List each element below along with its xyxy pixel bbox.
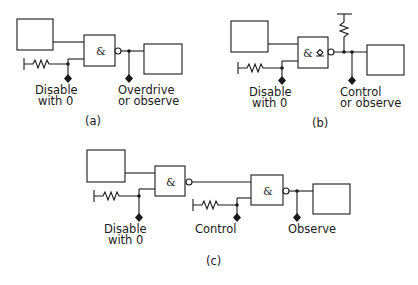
source-block-b: [231, 21, 268, 52]
caption-c: (c): [206, 254, 221, 268]
inversion-bubble-a: [115, 48, 121, 54]
junction-dot-c-in: [137, 194, 141, 198]
junction-dot-c-control: [235, 203, 239, 207]
inversion-bubble-b: [328, 49, 334, 55]
test-point-a-in-icon[interactable]: [64, 74, 72, 83]
resistor-a-icon: [24, 60, 68, 68]
inversion-bubble-c2: [283, 188, 289, 194]
caption-a: (a): [85, 114, 101, 128]
panel-c: & & Disable with 0 Control Observe (c): [87, 150, 350, 268]
testability-circuit-diagram: & Disable with 0 Overdrive or observe (a…: [0, 0, 418, 285]
label-a-disable-2: with 0: [38, 94, 73, 108]
resistor-c1-icon: [94, 192, 139, 200]
test-point-c-in-icon[interactable]: [135, 213, 143, 222]
label-b-control-2: or observe: [340, 96, 401, 110]
gate-symbol-a: &: [96, 45, 106, 58]
inversion-bubble-c1: [186, 179, 192, 185]
label-c-observe: Observe: [288, 222, 336, 236]
dest-block-c: [313, 184, 350, 214]
test-point-b-out-icon[interactable]: [348, 76, 356, 85]
test-point-c-control-icon[interactable]: [233, 213, 241, 222]
label-c-disable-2: with 0: [108, 233, 143, 247]
dest-block-a: [144, 44, 182, 74]
label-c-control: Control: [195, 222, 237, 236]
pullup-resistor-b-icon: [340, 14, 348, 52]
source-block-c: [87, 150, 125, 182]
resistor-b-icon: [238, 64, 282, 72]
test-point-b-in-icon[interactable]: [278, 76, 286, 85]
label-b-disable-2: with 0: [252, 96, 287, 110]
panel-a: & Disable with 0 Overdrive or observe (a…: [17, 19, 182, 128]
test-point-c-out-icon[interactable]: [293, 213, 301, 222]
label-a-overdrive-2: or observe: [118, 94, 179, 108]
test-point-a-out-icon[interactable]: [125, 74, 133, 83]
dest-block-b: [367, 45, 404, 75]
gate-symbol-c1: &: [166, 176, 176, 189]
gate-symbol-c2: &: [263, 185, 273, 198]
junction-dot-a-in: [66, 62, 70, 66]
panel-b: & Disable with 0 Control or observe (b): [231, 14, 404, 130]
resistor-c2-icon: [193, 201, 237, 209]
source-block-a: [17, 19, 53, 50]
caption-b: (b): [312, 116, 328, 130]
gate-symbol-b: &: [303, 47, 313, 60]
junction-dot-b-in: [280, 66, 284, 70]
